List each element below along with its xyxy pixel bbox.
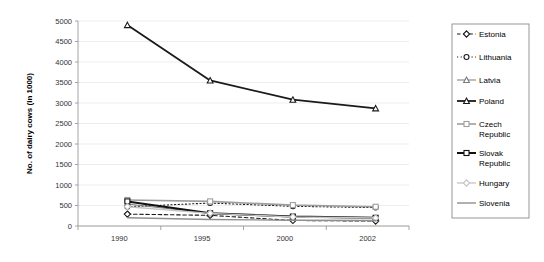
y-tick-label: 3500 (55, 78, 72, 87)
y-tick-label: 500 (59, 201, 72, 210)
series-poland (124, 22, 378, 111)
y-tick-label: 0 (68, 222, 72, 231)
legend-label-line2: Republic (479, 159, 510, 168)
y-tick-label: 3000 (55, 99, 72, 108)
legend-label: Czech (479, 120, 502, 129)
data-point (290, 97, 296, 102)
legend-marker (464, 151, 469, 156)
legend-label-line2: Republic (479, 130, 510, 139)
data-point (373, 204, 378, 209)
legend-label: Latvia (479, 76, 501, 85)
x-tick-label: 1995 (194, 234, 211, 243)
y-tick-label: 4500 (55, 37, 72, 46)
legend-marker (464, 122, 469, 127)
legend-label: Slovak (479, 149, 504, 158)
x-tick-label: 2000 (277, 234, 294, 243)
y-axis: 0500100015002000250030003500400045005000 (55, 17, 78, 231)
data-point (124, 22, 130, 27)
x-axis: 1990199520002002 (78, 226, 409, 243)
data-point (208, 199, 213, 204)
x-tick-label: 1990 (111, 234, 128, 243)
legend-label: Poland (479, 97, 504, 106)
data-point (124, 211, 130, 217)
y-tick-label: 1500 (55, 160, 72, 169)
y-axis-title: No. of dairy cows (in 1000) (25, 73, 34, 174)
legend-marker (464, 55, 469, 60)
gridlines-group (78, 21, 409, 226)
y-tick-label: 4000 (55, 58, 72, 67)
x-tick-label: 2002 (359, 234, 376, 243)
y-tick-label: 1000 (55, 181, 72, 190)
line-chart: 0500100015002000250030003500400045005000… (0, 0, 544, 262)
data-point (290, 203, 295, 208)
y-tick-label: 2000 (55, 140, 72, 149)
y-tick-label: 5000 (55, 17, 72, 26)
legend-label: Lithuania (479, 53, 512, 62)
legend-label: Slovenia (479, 199, 510, 208)
series-line (127, 25, 375, 108)
legend: EstoniaLithuaniaLatviaPolandCzechRepubli… (452, 24, 529, 218)
legend-label: Estonia (479, 30, 506, 39)
data-point (373, 105, 379, 110)
chart-container: 0500100015002000250030003500400045005000… (0, 0, 544, 262)
legend-label: Hungary (479, 179, 509, 188)
y-tick-label: 2500 (55, 119, 72, 128)
